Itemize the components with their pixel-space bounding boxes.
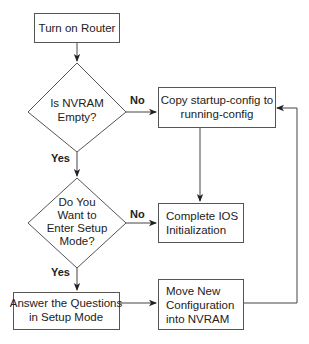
node-label-line-2: Initialization — [166, 224, 226, 236]
node-label-line-4: Mode? — [59, 235, 94, 247]
flowchart-canvas: No Yes No Yes Turn on Router Is NVRAM Em… — [0, 0, 309, 344]
node-label-line-1: Complete IOS — [166, 210, 239, 222]
edge-label-setup-yes: Yes — [51, 266, 70, 278]
node-label-line-1: Copy startup-config to — [161, 94, 274, 106]
node-label-line-1: Answer the Questions — [10, 297, 123, 309]
node-enter-setup-mode: Do You Want to Enter Setup Mode? — [28, 178, 126, 268]
edge-label-setup-no: No — [130, 208, 145, 220]
node-move-config-nvram: Move New Configuration into NVRAM — [159, 280, 244, 330]
edges — [77, 42, 297, 303]
node-copy-startup-config: Copy startup-config to running-config — [159, 88, 276, 128]
edge-move-to-copy-loop — [243, 108, 297, 303]
node-label-line-2: Configuration — [166, 299, 234, 311]
edge-label-nvram-no: No — [130, 94, 145, 106]
node-turn-on-router: Turn on Router — [35, 14, 120, 43]
node-complete-ios-initialization: Complete IOS Initialization — [159, 204, 244, 243]
node-label-line-1: Is NVRAM — [50, 97, 104, 109]
node-label-line-3: Enter Setup — [47, 222, 108, 234]
node-label-line-2: running-config — [181, 108, 254, 120]
node-label-line-2: Empty? — [58, 111, 97, 123]
node-answer-questions: Answer the Questions in Setup Mode — [10, 293, 123, 330]
node-label-line-1: Do You — [58, 196, 95, 208]
node-label: Turn on Router — [39, 22, 116, 34]
node-label-line-3: into NVRAM — [166, 313, 229, 325]
edge-label-nvram-yes: Yes — [51, 152, 70, 164]
node-label-line-2: Want to — [57, 209, 96, 221]
node-label-line-1: Move New — [166, 285, 221, 297]
node-label-line-2: in Setup Mode — [29, 311, 103, 323]
node-is-nvram-empty: Is NVRAM Empty? — [28, 63, 126, 152]
